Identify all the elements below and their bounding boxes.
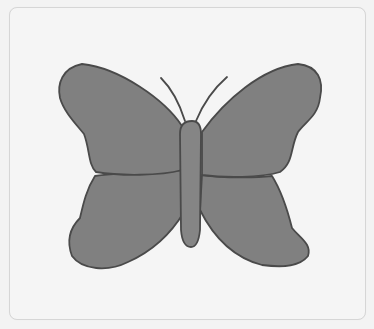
butterfly-illustration xyxy=(0,0,374,329)
upper-right-wing xyxy=(202,64,321,177)
body xyxy=(180,121,201,247)
lower-left-wing xyxy=(69,170,184,268)
lower-right-wing xyxy=(200,175,309,266)
